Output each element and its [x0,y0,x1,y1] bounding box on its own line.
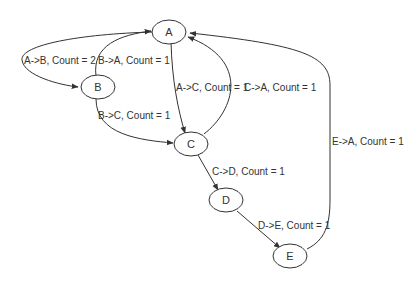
edge-e-to-a: E->A, Count = 1 [190,33,404,249]
node-c-label: C [187,138,195,150]
edge-c-to-d: C->D, Count = 1 [198,155,285,190]
node-d-label: D [222,194,230,206]
edge-label-b-a: B->A, Count = 1 [98,55,170,66]
node-a[interactable]: A [152,20,186,44]
node-b[interactable]: B [81,75,115,99]
node-b-label: B [94,81,101,93]
edge-a-to-c: A->C, Count = 1 [171,42,249,133]
node-d[interactable]: D [209,188,243,212]
edge-label-b-c: B->C, Count = 1 [98,110,171,121]
edge-label-e-a: E->A, Count = 1 [332,136,404,147]
node-c[interactable]: C [174,132,208,156]
edge-b-to-c: B->C, Count = 1 [96,99,173,143]
state-graph: A->B, Count = 2 B->A, Count = 1 A->C, Co… [0,0,412,284]
edge-label-a-b: A->B, Count = 2 [24,55,96,66]
edge-label-d-e: D->E, Count = 1 [258,220,331,231]
edge-label-c-d: C->D, Count = 1 [212,166,285,177]
edge-label-c-a: C->A, Count = 1 [244,82,317,93]
node-a-label: A [165,26,173,38]
edge-label-a-c: A->C, Count = 1 [176,82,249,93]
node-e-label: E [286,250,293,262]
node-e[interactable]: E [273,244,307,268]
